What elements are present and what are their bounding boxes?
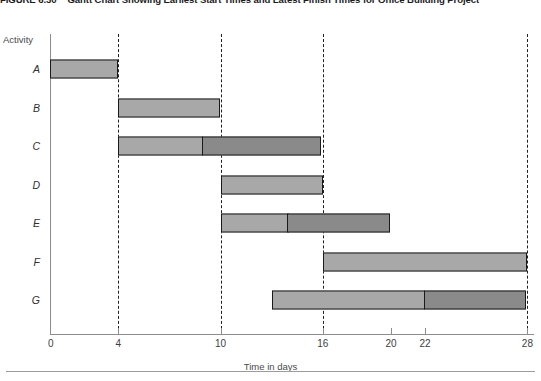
- activity-label-d: D: [18, 179, 40, 191]
- bar-d-early: [221, 175, 323, 194]
- y-axis-line: [50, 34, 51, 334]
- x-axis-line: [50, 334, 534, 335]
- x-tick-mark-28: [527, 328, 528, 335]
- x-tick-mark-22: [425, 328, 426, 335]
- bar-c-early: [118, 137, 203, 156]
- x-tick-mark-16: [323, 328, 324, 335]
- bar-a-early: [50, 60, 118, 79]
- bar-b-early: [118, 98, 220, 117]
- x-tick-label-0: 0: [48, 338, 54, 349]
- activity-label-f: F: [18, 256, 40, 268]
- gridline-day-16: [323, 34, 324, 334]
- bar-c-float: [202, 137, 321, 156]
- activity-label-e: E: [18, 217, 40, 229]
- bar-e-early: [221, 214, 289, 233]
- figure-number: FIGURE 6.30: [0, 0, 56, 5]
- x-tick-mark-0: [50, 328, 51, 335]
- x-tick-label-16: 16: [317, 338, 328, 349]
- gridline-day-28: [527, 34, 528, 334]
- x-tick-label-4: 4: [115, 338, 121, 349]
- x-tick-label-10: 10: [215, 338, 226, 349]
- bar-f-early: [323, 252, 528, 271]
- figure-title: FIGURE 6.30Gantt Chart Showing Earliest …: [0, 0, 541, 5]
- activity-label-g: G: [18, 294, 40, 306]
- activity-label-c: C: [18, 140, 40, 152]
- x-tick-label-22: 22: [420, 338, 431, 349]
- x-tick-mark-20: [391, 328, 392, 335]
- y-axis-label: Activity: [3, 34, 33, 45]
- bar-g-float: [424, 291, 526, 310]
- x-tick-label-28: 28: [522, 338, 533, 349]
- gridline-day-4: [118, 34, 119, 334]
- activity-label-a: A: [18, 63, 40, 75]
- x-tick-mark-10: [221, 328, 222, 335]
- bar-g-early: [272, 291, 425, 310]
- activity-label-b: B: [18, 102, 40, 114]
- bottom-divider: [6, 371, 535, 372]
- figure-title-text: Gantt Chart Showing Earliest Start Times…: [67, 0, 479, 5]
- x-tick-mark-4: [118, 328, 119, 335]
- gantt-chart: Activity 041016202228 ABCDEFG Time in da…: [0, 12, 541, 360]
- x-tick-label-20: 20: [385, 338, 396, 349]
- bar-e-float: [287, 214, 389, 233]
